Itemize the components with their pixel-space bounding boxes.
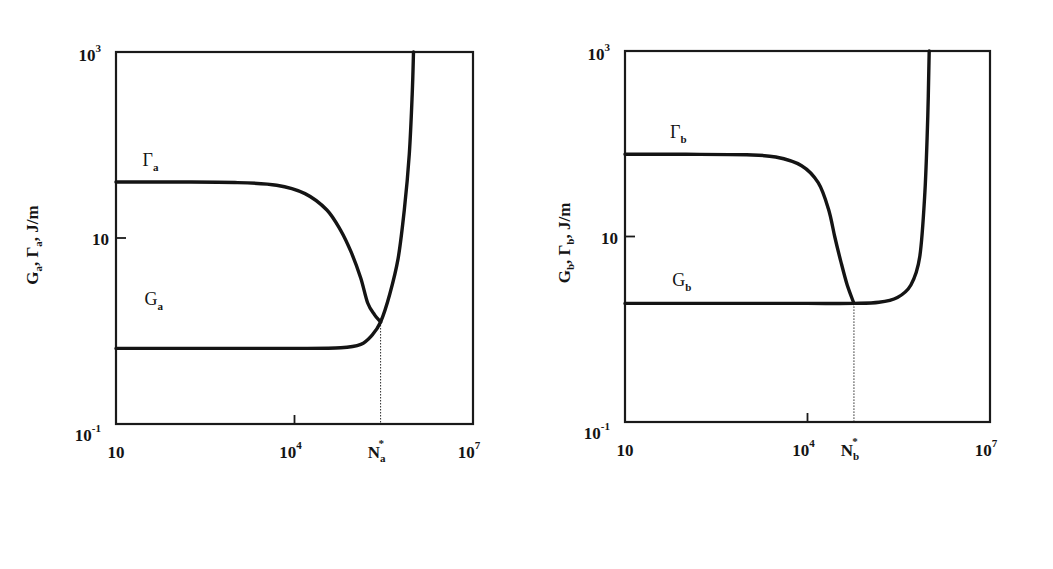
- x-tick-label: 104: [792, 437, 815, 460]
- critical-cycle-label: Nb*: [841, 435, 859, 462]
- y-axis-label: Gb, Γb, J/m: [555, 203, 576, 284]
- panel-b: 10104107Nb*1031010-1Gb, Γb, J/mΓbGb: [555, 41, 998, 462]
- x-tick-label: 104: [279, 439, 302, 462]
- series-curve-gamma: [625, 154, 854, 303]
- x-tick-label: 107: [458, 439, 481, 462]
- figure: 10104107Na*1031010-1Ga, Γa, J/mΓaGa 1010…: [0, 0, 1053, 569]
- y-tick-label: 103: [588, 41, 611, 64]
- series-label-gamma: Γa: [143, 150, 159, 173]
- y-tick-label: 10: [92, 230, 109, 249]
- plot-frame: [116, 52, 473, 424]
- plot-frame: [625, 51, 990, 422]
- x-tick-label: 10: [617, 441, 634, 460]
- y-tick-label: 10: [601, 229, 618, 248]
- panel-a: 10104107Na*1031010-1Ga, Γa, J/mΓaGa: [23, 42, 481, 464]
- y-axis-label: Ga, Γa, J/m: [23, 205, 44, 284]
- y-tick-label: 10-1: [584, 420, 610, 443]
- series-label-g: Gb: [672, 270, 691, 293]
- x-tick-label: 107: [975, 437, 998, 460]
- series-label-gamma: Γb: [670, 122, 687, 145]
- y-tick-label: 10-1: [75, 422, 101, 445]
- x-tick-label: 10: [108, 443, 125, 462]
- series-label-g: Ga: [144, 289, 163, 312]
- series-curve-g: [625, 51, 929, 303]
- critical-cycle-label: Na*: [368, 437, 386, 464]
- y-tick-label: 103: [79, 42, 102, 65]
